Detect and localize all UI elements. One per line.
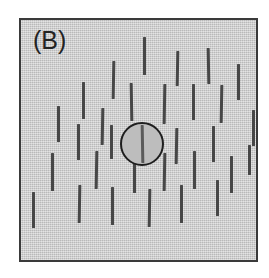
line-element bbox=[193, 151, 196, 189]
line-element bbox=[248, 145, 251, 175]
line-element bbox=[111, 61, 115, 99]
line-element bbox=[94, 151, 98, 189]
line-element bbox=[51, 153, 54, 191]
line-element bbox=[212, 126, 215, 162]
central-disc bbox=[120, 122, 164, 166]
line-element bbox=[82, 82, 85, 119]
line-element bbox=[129, 83, 133, 121]
line-element bbox=[100, 107, 104, 144]
line-element bbox=[216, 180, 219, 216]
line-element bbox=[230, 156, 233, 193]
line-element bbox=[77, 124, 80, 160]
line-element bbox=[180, 185, 183, 223]
line-element bbox=[110, 125, 113, 159]
panel-label: (B) bbox=[33, 28, 66, 53]
line-element bbox=[162, 153, 166, 191]
figure-root: (B) bbox=[0, 0, 269, 278]
line-element bbox=[32, 192, 35, 228]
line-element bbox=[219, 85, 223, 123]
line-element bbox=[174, 128, 178, 164]
line-element bbox=[57, 106, 60, 142]
stimulus-panel: (B) bbox=[19, 18, 258, 262]
line-element bbox=[175, 50, 179, 85]
line-element bbox=[237, 64, 240, 100]
line-element bbox=[252, 110, 255, 146]
line-element bbox=[162, 84, 166, 124]
line-element bbox=[143, 37, 146, 75]
line-element bbox=[206, 48, 210, 84]
central-disc-line bbox=[140, 125, 144, 163]
line-element bbox=[147, 189, 151, 227]
line-element bbox=[77, 185, 81, 223]
line-element bbox=[111, 187, 114, 225]
line-element bbox=[192, 84, 195, 120]
